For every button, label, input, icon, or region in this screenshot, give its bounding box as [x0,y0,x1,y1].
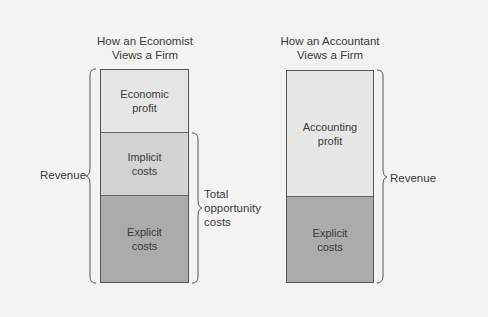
revenue-left-brace [86,68,98,284]
accountant-explicit-costs-segment: Explicit costs [287,197,373,282]
accountant-column: Accounting profit Explicit costs [286,70,374,283]
opportunity-costs-brace [191,132,203,284]
accounting-profit-label: Accounting profit [303,120,357,148]
explicit-costs-segment: Explicit costs [101,196,188,282]
total-opportunity-costs-label: Total opportunity costs [204,187,261,229]
economic-profit-segment: Economic profit [101,70,188,133]
accountant-title: How an Accountant Views a Firm [278,34,382,62]
economist-revenue-label: Revenue [40,168,86,182]
accounting-profit-segment: Accounting profit [287,71,373,197]
implicit-costs-label: Implicit costs [127,150,161,178]
revenue-right-brace [376,69,388,285]
economist-title: How an Economist Views a Firm [95,34,195,62]
accountant-explicit-costs-label: Explicit costs [313,226,348,254]
explicit-costs-label: Explicit costs [127,225,162,253]
implicit-costs-segment: Implicit costs [101,133,188,196]
accountant-revenue-label: Revenue [390,171,436,185]
economist-column: Economic profit Implicit costs Explicit … [100,69,189,283]
economic-profit-label: Economic profit [120,87,168,115]
